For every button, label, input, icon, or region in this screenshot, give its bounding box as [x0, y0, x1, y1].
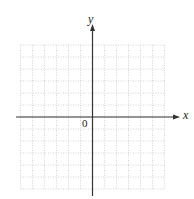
x-axis-arrow-icon: [173, 115, 180, 120]
x-axis-label: x: [183, 108, 188, 123]
coordinate-plane: [0, 0, 194, 199]
y-axis-label: y: [88, 12, 93, 27]
origin-label: 0: [82, 117, 88, 129]
